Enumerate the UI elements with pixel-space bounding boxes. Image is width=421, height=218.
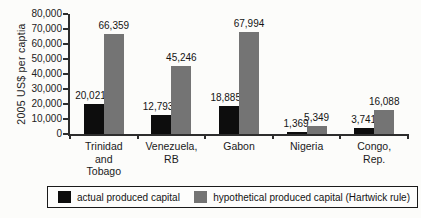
y-tick-label: 0: [0, 128, 62, 140]
bar-hypothetical: [307, 126, 327, 134]
y-tick-mark: [63, 73, 68, 75]
y-tick-label: 60,000: [0, 38, 62, 50]
value-label: 16,088: [369, 96, 400, 107]
value-label: 12,793: [143, 101, 174, 112]
y-tick-label: 10,000: [0, 113, 62, 125]
y-tick-label: 30,000: [0, 83, 62, 95]
y-tick-mark: [63, 118, 68, 120]
x-tick: [137, 134, 139, 139]
y-tick-mark: [63, 13, 68, 15]
y-tick-mark: [63, 103, 68, 105]
x-tick: [339, 134, 341, 139]
bar-hypothetical: [239, 32, 259, 134]
x-category-label: Gabon: [223, 140, 255, 153]
bar-actual: [151, 115, 171, 134]
y-tick-mark: [63, 133, 68, 135]
bar-actual: [84, 104, 104, 134]
legend-item-hypothetical: hypothetical produced capital (Hartwick …: [194, 191, 410, 203]
x-category-label: Congo, Rep.: [357, 140, 391, 165]
bar-actual: [354, 128, 374, 134]
legend: actual produced capital hypothetical pro…: [47, 186, 418, 208]
value-label: 5,349: [304, 112, 329, 123]
plot-area: Trinidad and Tobago20,02166,359Venezuela…: [68, 14, 408, 136]
y-tick-mark: [63, 58, 68, 60]
y-tick-mark: [63, 43, 68, 45]
y-tick-label: 70,000: [0, 23, 62, 35]
x-tick: [204, 134, 206, 139]
value-label: 66,359: [99, 20, 130, 31]
x-tick: [272, 134, 274, 139]
x-tick: [407, 134, 409, 139]
y-axis: 010,00020,00030,00040,00050,00060,00070,…: [0, 0, 68, 218]
y-tick-label: 50,000: [0, 53, 62, 65]
x-category-label: Venezuela, RB: [145, 140, 197, 165]
legend-label-actual: actual produced capital: [77, 192, 180, 203]
bar-actual: [219, 106, 239, 134]
value-label: 67,994: [234, 18, 265, 29]
legend-item-actual: actual produced capital: [58, 191, 180, 203]
value-label: 3,741: [351, 114, 376, 125]
bar-actual: [287, 132, 307, 134]
x-tick: [69, 134, 71, 139]
y-tick-label: 20,000: [0, 98, 62, 110]
x-category-label: Nigeria: [290, 140, 323, 153]
y-tick-label: 40,000: [0, 68, 62, 80]
figure: 2005 US$ per captia Trinidad and Tobago2…: [0, 0, 421, 218]
legend-label-hypothetical: hypothetical produced capital (Hartwick …: [213, 192, 410, 203]
bar-hypothetical: [104, 34, 124, 134]
x-category-label: Trinidad and Tobago: [85, 140, 123, 178]
y-tick-mark: [63, 28, 68, 30]
bar-hypothetical: [374, 110, 394, 134]
y-tick-label: 80,000: [0, 8, 62, 20]
value-label: 18,885: [210, 92, 241, 103]
legend-swatch-hypothetical: [194, 191, 207, 203]
bar-hypothetical: [171, 66, 191, 134]
y-tick-mark: [63, 88, 68, 90]
value-label: 20,021: [75, 90, 106, 101]
value-label: 45,246: [166, 52, 197, 63]
